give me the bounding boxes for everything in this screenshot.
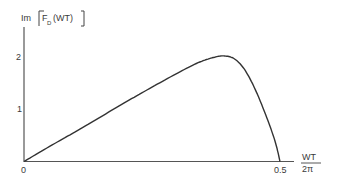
x-axis-label: WT 2π — [301, 152, 321, 174]
svg-text:WT: WT — [302, 152, 316, 162]
svg-text:(WT): (WT) — [53, 13, 73, 23]
y-axis-label: Im F D (WT) — [21, 11, 84, 26]
x-tick-label-0.5: 0.5 — [274, 165, 287, 175]
y-tick-label-2: 2 — [16, 52, 21, 62]
data-series-line — [24, 56, 280, 162]
svg-text:Im: Im — [21, 13, 31, 23]
chart: Im F D (WT) 2 1 0 0.5 WT 2π — [0, 0, 338, 181]
svg-text:D: D — [47, 20, 52, 26]
y-tick-label-1: 1 — [17, 104, 22, 114]
x-tick-label-0: 0 — [21, 165, 26, 175]
svg-text:2π: 2π — [302, 164, 313, 174]
